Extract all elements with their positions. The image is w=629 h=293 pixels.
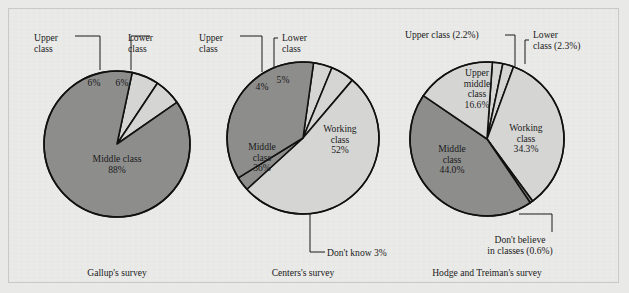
- leader-line: [274, 38, 278, 68]
- leader-line: [75, 36, 100, 70]
- leader-line: [310, 214, 325, 252]
- slice-label: 6%: [88, 77, 101, 88]
- callout-label: Lowerclass: [282, 32, 308, 54]
- slice-label: Uppermiddleclass16.6%: [464, 67, 491, 110]
- pie-chart-1: 6%6%Middle class88%UpperclassLowerclass: [34, 32, 190, 217]
- pie-charts-figure: 6%6%Middle class88%UpperclassLowerclass4…: [0, 0, 629, 293]
- pie-chart-2: 4%5%Workingclass52%Middleclass36%Uppercl…: [199, 32, 387, 258]
- callout-label: Don't know 3%: [327, 247, 387, 258]
- chart-caption-2: Centers's survey: [272, 267, 335, 278]
- leader-line: [525, 40, 529, 64]
- callout-label: Upperclass: [199, 32, 224, 54]
- slice-label: 5%: [277, 74, 290, 85]
- chart-caption-3: Hodge and Treiman's survey: [432, 267, 542, 278]
- callout-label: Lowerclass (2.3%): [533, 29, 580, 52]
- callout-label: Upper class (2.2%): [405, 29, 479, 41]
- callout-label: Lowerclass: [128, 32, 154, 54]
- leader-line: [519, 214, 552, 232]
- leader-line: [505, 35, 515, 66]
- callout-label: Upperclass: [34, 32, 59, 54]
- slice-label: 4%: [256, 81, 269, 92]
- chart-caption-1: Gallup's survey: [87, 267, 147, 278]
- leader-line: [240, 36, 262, 72]
- slice-label: 6%: [116, 77, 129, 88]
- callout-label: Don't believein classes (0.6%): [487, 234, 552, 257]
- pie-chart-3: Workingclass34.3%Middleclass44.0%Uppermi…: [405, 29, 580, 257]
